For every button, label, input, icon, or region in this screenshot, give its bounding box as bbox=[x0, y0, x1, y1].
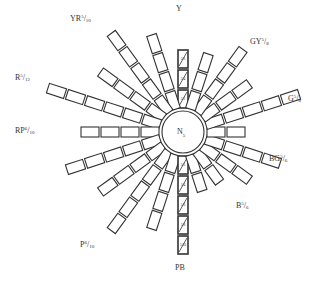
color-chip bbox=[159, 172, 174, 192]
chip-value-label: 5/4 bbox=[181, 77, 186, 81]
color-chip bbox=[122, 141, 142, 156]
color-chip bbox=[232, 166, 252, 185]
color-chip: 5/8 bbox=[178, 216, 188, 234]
hue-label-rp: RP6/10 bbox=[15, 126, 35, 135]
color-chip bbox=[147, 33, 162, 53]
color-chip bbox=[65, 159, 85, 174]
color-chip bbox=[227, 127, 245, 137]
hue-label-gy: GY5/8 bbox=[250, 37, 269, 46]
hue-label-r: R5/12 bbox=[15, 73, 30, 82]
color-chip bbox=[217, 63, 236, 83]
color-chip bbox=[142, 79, 161, 99]
chip-value-label: 5/2 bbox=[181, 163, 186, 167]
hue-label-pb: PB bbox=[175, 264, 185, 272]
hue-label-yr: YR5/10 bbox=[70, 14, 91, 23]
color-chip bbox=[130, 91, 150, 110]
color-chip: 5/6 bbox=[178, 196, 188, 214]
hue-label-b: B5/6 bbox=[236, 201, 249, 210]
color-chip bbox=[122, 108, 142, 123]
color-chip bbox=[114, 166, 134, 185]
color-chip bbox=[107, 30, 126, 50]
color-chip bbox=[130, 154, 150, 173]
color-chip bbox=[131, 63, 150, 83]
color-chip: 5/4 bbox=[178, 176, 188, 194]
chip-value-label: 5/10 bbox=[180, 243, 186, 247]
color-chip bbox=[84, 96, 104, 111]
hue-label-g: G5/8 bbox=[288, 94, 301, 103]
color-chip bbox=[46, 83, 66, 98]
color-chip bbox=[153, 52, 168, 72]
color-chip bbox=[232, 80, 252, 99]
color-chip bbox=[119, 47, 138, 67]
color-chip bbox=[228, 47, 247, 67]
color-chip bbox=[131, 181, 150, 201]
color-chip bbox=[223, 108, 243, 123]
color-chip bbox=[242, 102, 262, 117]
color-chip bbox=[147, 210, 162, 230]
chip-value-label: 5/6 bbox=[181, 203, 186, 207]
color-chip bbox=[114, 80, 134, 99]
chip-value-label: 5/8 bbox=[181, 223, 186, 227]
color-chip bbox=[101, 127, 119, 137]
color-chip bbox=[142, 165, 161, 185]
color-chip bbox=[84, 153, 104, 168]
hue-label-bg: BG5/6 bbox=[269, 154, 287, 163]
chip-value-label: 5/6 bbox=[181, 57, 186, 61]
color-chip bbox=[205, 79, 224, 99]
color-chip bbox=[81, 127, 99, 137]
color-chip: 5/6 bbox=[178, 50, 188, 68]
color-chip bbox=[121, 127, 139, 137]
color-chip bbox=[153, 191, 168, 211]
color-chip: 5/4 bbox=[178, 70, 188, 88]
color-chip bbox=[103, 147, 123, 162]
color-chip: 5/10 bbox=[178, 236, 188, 254]
color-chip bbox=[261, 96, 281, 111]
color-chip bbox=[242, 147, 262, 162]
center-label: N5 bbox=[177, 127, 185, 138]
chip-value-label: 5/2 bbox=[181, 97, 186, 101]
munsell-diagram: 5/25/45/65/25/45/65/85/10 N5 Y YR5/10 GY… bbox=[0, 0, 316, 288]
color-chip bbox=[159, 71, 174, 91]
chip-value-label: 5/4 bbox=[181, 183, 186, 187]
color-chip bbox=[216, 154, 236, 173]
color-chip bbox=[119, 197, 138, 217]
color-chip bbox=[98, 68, 118, 87]
color-chip bbox=[107, 213, 126, 233]
color-chip bbox=[192, 71, 207, 91]
color-chip bbox=[65, 90, 85, 105]
center-label-sub: 5 bbox=[183, 133, 186, 138]
color-chip bbox=[205, 165, 224, 185]
color-chip bbox=[192, 172, 207, 192]
color-chip bbox=[216, 91, 236, 110]
color-chip bbox=[198, 52, 213, 72]
color-chip bbox=[103, 102, 123, 117]
hue-label-p: P6/10 bbox=[80, 240, 94, 249]
hue-label-y: Y bbox=[176, 5, 182, 13]
color-chip bbox=[223, 141, 243, 156]
color-chip bbox=[98, 177, 118, 196]
